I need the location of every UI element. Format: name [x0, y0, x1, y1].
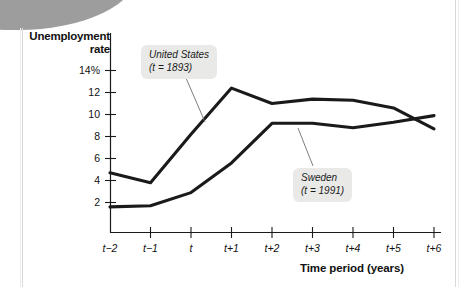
- x-tick-label-t-minus-2: t−2: [88, 242, 132, 254]
- callout-sweden-period: (t = 1991): [301, 185, 344, 198]
- y-tick-label-14: 14%: [60, 64, 100, 76]
- x-axis-title: Time period (years): [300, 262, 404, 274]
- x-tick-label-t-plus-6: t+6: [412, 242, 456, 254]
- y-tick-label-12: 12: [60, 86, 100, 98]
- y-tick-label-6: 6: [60, 152, 100, 164]
- callout-united-states-period: (t = 1893): [149, 62, 209, 75]
- y-tick-label-2: 2: [60, 196, 100, 208]
- x-tick-label-t-plus-1: t+1: [210, 242, 254, 254]
- callout-leader-united-states: [186, 78, 205, 122]
- y-tick-label-10: 10: [60, 108, 100, 120]
- series-line-united-states: [110, 88, 434, 183]
- y-tick-label-8: 8: [60, 130, 100, 142]
- callout-sweden: Sweden (t = 1991): [293, 168, 352, 202]
- x-tick-label-t-plus-4: t+4: [331, 242, 375, 254]
- figure-page: Unemployment rate: [0, 0, 472, 287]
- x-tick-label-t: t: [169, 242, 213, 254]
- callout-united-states-name: United States: [149, 49, 209, 60]
- series-line-sweden: [110, 116, 434, 207]
- x-tick-label-t-plus-5: t+5: [372, 242, 416, 254]
- x-tick-label-t-minus-1: t−1: [129, 242, 173, 254]
- callout-leader-sweden: [298, 128, 313, 166]
- y-tick-label-4: 4: [60, 174, 100, 186]
- x-tick-label-t-plus-2: t+2: [250, 242, 294, 254]
- callout-sweden-name: Sweden: [301, 172, 337, 183]
- callout-united-states: United States (t = 1893): [141, 45, 217, 79]
- x-tick-label-t-plus-3: t+3: [291, 242, 335, 254]
